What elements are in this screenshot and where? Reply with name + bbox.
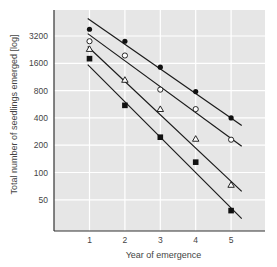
marker-filled-circle (229, 115, 234, 120)
y-axis-label: Total number of seedlings emerged [log] (9, 34, 19, 194)
y-tick-label: 400 (34, 113, 48, 123)
marker-open-circle (229, 137, 234, 142)
y-tick-label: 800 (34, 86, 48, 96)
marker-open-circle (122, 53, 127, 58)
marker-filled-circle (122, 39, 127, 44)
y-tick-label: 3200 (29, 31, 48, 41)
x-tick-label: 1 (87, 235, 92, 245)
x-tick-labels: 12345 (87, 235, 234, 245)
x-axis-label: Year of emergence (126, 250, 202, 260)
marker-filled-square (228, 208, 234, 214)
y-tick-label: 1600 (29, 58, 48, 68)
x-tick-label: 4 (193, 235, 198, 245)
x-tick-label: 2 (123, 235, 128, 245)
marker-filled-circle (158, 65, 163, 70)
marker-filled-square (122, 103, 128, 109)
marker-filled-square (87, 56, 93, 62)
plot-background (54, 10, 265, 231)
marker-filled-square (193, 159, 199, 165)
y-tick-label: 100 (34, 168, 48, 178)
seedling-emergence-chart: 3200160080040020010050 12345 Year of eme… (0, 0, 277, 267)
marker-open-circle (158, 87, 163, 92)
y-tick-labels: 3200160080040020010050 (29, 31, 48, 205)
marker-filled-circle (193, 89, 198, 94)
y-tick-label: 200 (34, 140, 48, 150)
marker-filled-square (158, 134, 164, 140)
marker-open-circle (87, 39, 92, 44)
marker-filled-circle (87, 27, 92, 32)
y-tick-label: 50 (39, 195, 49, 205)
x-tick-label: 3 (158, 235, 163, 245)
x-tick-label: 5 (229, 235, 234, 245)
marker-open-circle (193, 107, 198, 112)
